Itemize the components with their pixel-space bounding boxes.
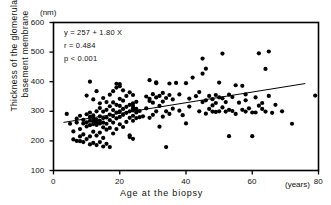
data-point — [104, 142, 108, 146]
data-point — [118, 104, 122, 108]
data-point — [78, 114, 82, 118]
data-point — [98, 101, 102, 105]
data-point — [263, 67, 267, 71]
data-point — [244, 110, 248, 114]
data-point — [247, 106, 251, 110]
data-point — [184, 121, 188, 125]
data-point — [280, 109, 284, 113]
data-point — [313, 94, 317, 98]
y-tick-label: 400 — [31, 77, 44, 86]
data-point — [157, 125, 161, 129]
data-point — [240, 84, 244, 88]
data-point — [260, 107, 264, 111]
data-point — [104, 122, 108, 126]
plot-canvas — [0, 0, 331, 205]
data-point-group — [65, 49, 318, 149]
data-point — [200, 57, 204, 61]
data-point — [181, 113, 185, 117]
x-tick-label: 40 — [181, 177, 190, 186]
data-point — [263, 110, 267, 114]
data-point — [184, 81, 188, 85]
y-tick-label: 100 — [31, 166, 44, 175]
data-point — [94, 109, 98, 113]
data-point — [98, 140, 102, 144]
data-point — [75, 120, 79, 124]
data-point — [257, 51, 261, 55]
data-point — [227, 134, 231, 138]
y-axis-title: Thickness of the glomerular basement mem… — [6, 0, 34, 129]
data-point — [253, 110, 257, 114]
data-point — [98, 131, 102, 135]
y-axis-title-line1: Thickness of the glomerular — [9, 0, 20, 112]
data-point — [161, 115, 165, 119]
data-point — [151, 113, 155, 117]
data-point — [98, 106, 102, 110]
data-point — [260, 101, 264, 105]
data-point — [151, 92, 155, 96]
data-point — [230, 109, 234, 113]
data-point — [94, 89, 98, 93]
data-point — [217, 80, 221, 84]
data-point — [94, 133, 98, 137]
data-point — [244, 98, 248, 102]
data-point — [124, 94, 128, 98]
data-point — [101, 144, 105, 148]
data-point — [128, 133, 132, 137]
data-point — [68, 122, 72, 126]
data-point — [78, 127, 82, 131]
data-point — [250, 134, 254, 138]
data-point — [214, 101, 218, 105]
data-point — [131, 93, 135, 97]
data-point — [207, 107, 211, 111]
data-point — [204, 67, 208, 71]
y-axis-title-line2: basement membrane — [20, 10, 31, 97]
data-point — [104, 100, 108, 104]
data-point — [267, 94, 271, 98]
data-point — [128, 90, 132, 94]
data-point — [177, 92, 181, 96]
data-point — [131, 137, 135, 141]
data-point — [187, 96, 191, 100]
y-tick-label: 200 — [31, 136, 44, 145]
x-axis-title: Age at the biopsy — [120, 188, 203, 198]
data-point — [111, 120, 115, 124]
data-point — [157, 94, 161, 98]
data-point — [108, 126, 112, 130]
data-point — [118, 122, 122, 126]
data-point — [108, 93, 112, 97]
data-point — [197, 109, 201, 113]
data-point — [273, 103, 277, 107]
x-tick-label: 0 — [51, 177, 55, 186]
data-point — [270, 111, 274, 115]
data-point — [114, 127, 118, 131]
data-point — [104, 108, 108, 112]
data-point — [91, 130, 95, 134]
data-point — [118, 82, 122, 86]
data-point — [224, 100, 228, 104]
data-point — [164, 145, 168, 149]
data-point — [234, 83, 238, 87]
data-point — [187, 104, 191, 108]
data-point — [191, 75, 195, 79]
x-tick-label: 20 — [115, 177, 124, 186]
data-point — [88, 110, 92, 114]
data-point — [194, 94, 198, 98]
x-tick-label: 80 — [314, 177, 323, 186]
data-point — [71, 129, 75, 133]
data-point — [108, 104, 112, 108]
data-point — [217, 109, 221, 113]
data-point — [101, 96, 105, 100]
data-point — [234, 112, 238, 116]
scatter-plot-figure: (nm) (years) Thickness of the glomerular… — [0, 0, 331, 205]
data-point — [204, 112, 208, 116]
y-tick-label: 600 — [31, 18, 44, 27]
data-point — [65, 112, 69, 116]
data-point — [124, 120, 128, 124]
data-point — [134, 100, 138, 104]
x-tick-label: 60 — [247, 177, 256, 186]
data-point — [91, 97, 95, 101]
data-point — [237, 101, 241, 105]
data-point — [154, 80, 158, 84]
data-point — [85, 137, 89, 141]
data-point — [111, 131, 115, 135]
